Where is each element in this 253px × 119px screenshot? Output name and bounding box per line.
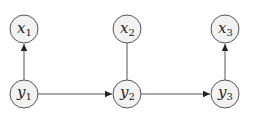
node-y2: y2 xyxy=(113,80,141,108)
graph-canvas: x1 x2 x3 y1 y2 y3 xyxy=(0,0,253,119)
node-y1: y1 xyxy=(10,80,38,108)
node-y3: y3 xyxy=(211,80,239,108)
node-x1: x1 xyxy=(10,15,38,43)
node-x2: x2 xyxy=(113,15,141,43)
node-x3: x3 xyxy=(211,15,239,43)
